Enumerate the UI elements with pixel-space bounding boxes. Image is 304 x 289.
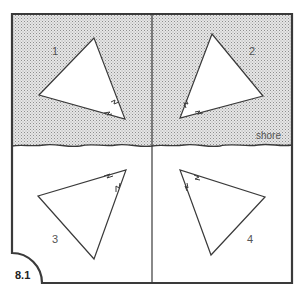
shore-label: shore <box>256 130 281 141</box>
triangle-3 <box>38 170 126 259</box>
quadrant-number-2: 2 <box>249 45 255 57</box>
diagram-figure: 1 2 3 4 shore 8.1 <box>0 0 304 289</box>
figure-label: 8.1 <box>15 269 30 281</box>
quadrant-number-4: 4 <box>247 233 253 245</box>
quadrant-number-1: 1 <box>52 45 58 57</box>
quadrant-number-3: 3 <box>52 233 58 245</box>
